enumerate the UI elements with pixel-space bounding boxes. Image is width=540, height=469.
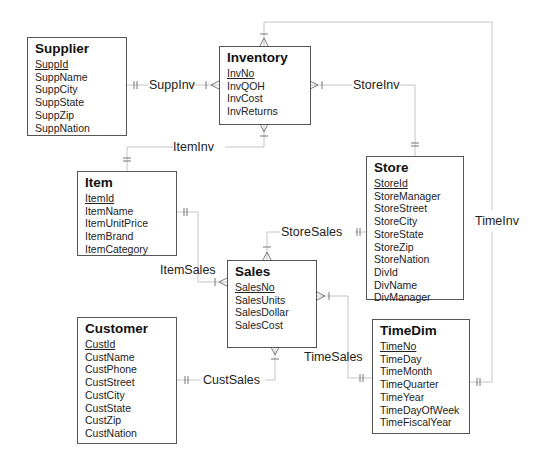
primary-key: InvNo bbox=[227, 67, 310, 80]
attribute: ItemName bbox=[85, 205, 176, 218]
attribute: CustState bbox=[85, 402, 176, 415]
attribute: SuppNation bbox=[35, 122, 126, 135]
entity-item[interactable]: Item ItemId ItemName ItemUnitPrice ItemB… bbox=[77, 171, 177, 256]
attribute: CustNation bbox=[85, 427, 176, 440]
attribute: CustCity bbox=[85, 389, 176, 402]
attribute: CustStreet bbox=[85, 376, 176, 389]
relationship-label-storeinv: StoreInv bbox=[353, 78, 400, 92]
attribute: SuppZip bbox=[35, 109, 126, 122]
entity-title: Inventory bbox=[227, 50, 310, 66]
primary-key: SuppId bbox=[35, 58, 126, 71]
entity-title: TimeDim bbox=[380, 323, 469, 339]
attribute: TimeQuarter bbox=[380, 378, 469, 391]
attribute: TimeYear bbox=[380, 391, 469, 404]
attribute: TimeMonth bbox=[380, 365, 469, 378]
entity-customer[interactable]: Customer CustId CustName CustPhone CustS… bbox=[77, 317, 177, 444]
relationship-label-iteminv: ItemInv bbox=[173, 140, 214, 154]
relationship-label-timeinv: TimeInv bbox=[475, 214, 519, 228]
entity-supplier[interactable]: Supplier SuppId SuppName SuppCity SuppSt… bbox=[27, 37, 127, 136]
attribute: SalesUnits bbox=[235, 294, 316, 307]
relationship-label-suppinv: SuppInv bbox=[149, 78, 195, 92]
attribute: TimeDay bbox=[380, 353, 469, 366]
timesales-line bbox=[317, 296, 372, 378]
attribute: SalesCost bbox=[235, 319, 316, 332]
primary-key: TimeNo bbox=[380, 340, 469, 353]
attribute: DivName bbox=[374, 279, 463, 292]
attribute: TimeFiscalYear bbox=[380, 416, 469, 429]
attribute: DivManager bbox=[374, 291, 463, 304]
entity-title: Store bbox=[374, 160, 463, 176]
relationship-label-timesales: TimeSales bbox=[304, 350, 363, 364]
entity-inventory[interactable]: Inventory InvNo InvQOH InvCost InvReturn… bbox=[219, 46, 311, 125]
attribute: DivId bbox=[374, 266, 463, 279]
entity-store[interactable]: Store StoreId StoreManager StoreStreet S… bbox=[366, 156, 464, 300]
attribute: ItemUnitPrice bbox=[85, 217, 176, 230]
entity-sales[interactable]: Sales SalesNo SalesUnits SalesDollar Sal… bbox=[227, 260, 317, 348]
attribute: CustZip bbox=[85, 414, 176, 427]
attribute: StoreManager bbox=[374, 190, 463, 203]
attribute: CustName bbox=[85, 351, 176, 364]
attribute: StoreNation bbox=[374, 253, 463, 266]
attribute: CustPhone bbox=[85, 363, 176, 376]
attribute: SuppCity bbox=[35, 83, 126, 96]
attribute: InvQOH bbox=[227, 80, 310, 93]
entity-title: Item bbox=[85, 175, 176, 191]
attribute: InvReturns bbox=[227, 105, 310, 118]
entity-title: Sales bbox=[235, 264, 316, 280]
attribute: StoreStreet bbox=[374, 202, 463, 215]
primary-key: StoreId bbox=[374, 177, 463, 190]
attribute: InvCost bbox=[227, 92, 310, 105]
primary-key: SalesNo bbox=[235, 281, 316, 294]
attribute: StoreCity bbox=[374, 215, 463, 228]
attribute: ItemCategory bbox=[85, 243, 176, 256]
attribute: ItemBrand bbox=[85, 230, 176, 243]
relationship-label-itemsales: ItemSales bbox=[160, 263, 216, 277]
storeinv-line bbox=[310, 85, 415, 156]
primary-key: CustId bbox=[85, 338, 176, 351]
attribute: SuppName bbox=[35, 71, 126, 84]
entity-title: Customer bbox=[85, 321, 176, 337]
attribute: StoreState bbox=[374, 228, 463, 241]
primary-key: ItemId bbox=[85, 192, 176, 205]
relationship-label-storesales: StoreSales bbox=[281, 225, 342, 239]
attribute: SuppState bbox=[35, 96, 126, 109]
relationship-label-custsales: CustSales bbox=[203, 373, 260, 387]
entity-title: Supplier bbox=[35, 41, 126, 57]
attribute: SalesDollar bbox=[235, 306, 316, 319]
attribute: TimeDayOfWeek bbox=[380, 404, 469, 417]
entity-timedim[interactable]: TimeDim TimeNo TimeDay TimeMonth TimeQua… bbox=[372, 319, 470, 434]
attribute: StoreZip bbox=[374, 241, 463, 254]
